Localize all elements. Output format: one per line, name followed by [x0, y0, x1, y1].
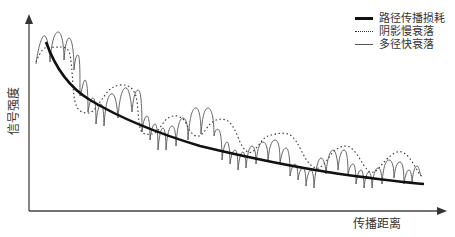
legend-item-fast-fading: 多径快衰落 — [355, 38, 445, 51]
x-axis-label: 传播距离 — [353, 214, 401, 231]
multipath-fast-fading-curve — [36, 32, 421, 188]
legend-label: 多径快衰落 — [379, 38, 434, 51]
thin-line-icon — [355, 44, 373, 45]
legend-label: 路径传播损耗 — [379, 12, 445, 25]
legend-item-path-loss: 路径传播损耗 — [355, 12, 445, 25]
y-axis-arrow-icon — [25, 14, 33, 24]
legend-item-shadow-fading: 阴影慢衰落 — [355, 25, 445, 38]
dotted-line-icon — [355, 31, 373, 32]
legend: 路径传播损耗 阴影慢衰落 多径快衰落 — [355, 12, 445, 51]
y-axis-label: 信号强度 — [4, 87, 21, 135]
x-axis-arrow-icon — [437, 207, 447, 215]
legend-label: 阴影慢衰落 — [379, 25, 434, 38]
thick-line-icon — [355, 17, 373, 20]
path-loss-curve — [46, 42, 424, 184]
shadow-fading-curve — [36, 47, 422, 176]
